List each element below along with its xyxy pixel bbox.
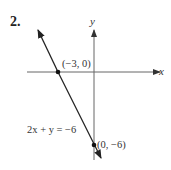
- equation-line: [38, 30, 58, 72]
- x-axis-label: x: [159, 66, 164, 77]
- graph: [0, 0, 171, 170]
- point-label-x-intercept: (−3, 0): [62, 59, 91, 70]
- y-axis-label: y: [90, 16, 95, 27]
- point-y-intercept: [92, 143, 97, 148]
- point-label-y-intercept: (0, −6): [97, 140, 126, 151]
- point-x-intercept: [56, 70, 61, 75]
- equation-label: 2x + y = −6: [27, 125, 76, 136]
